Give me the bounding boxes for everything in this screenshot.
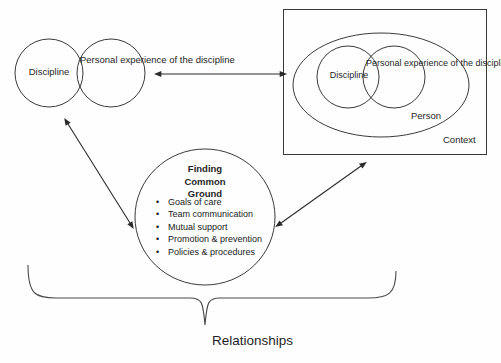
list-item-label: Policies & procedures xyxy=(168,247,255,257)
bullet-icon: • xyxy=(156,221,159,233)
diagram-vector-layer xyxy=(0,0,501,363)
list-item-label: Promotion & prevention xyxy=(168,234,262,244)
connector-common-ground-to-context xyxy=(281,166,361,223)
finding-common-ground-title: FindingCommonGround xyxy=(160,163,250,201)
right-discipline-label: Discipline xyxy=(320,70,378,81)
person-label: Person xyxy=(411,110,441,121)
connector-left-venn-to-common-ground xyxy=(68,124,130,223)
list-item-label: Mutual support xyxy=(168,222,228,232)
relationships-brace xyxy=(28,265,396,325)
list-item-label: Goals of care xyxy=(168,197,222,207)
fcg-title-line-2: Common xyxy=(184,176,225,187)
bullet-icon: • xyxy=(156,208,159,220)
common-ground-bullet-list: •Goals of care •Team communication •Mutu… xyxy=(155,196,273,258)
list-item: •Goals of care xyxy=(155,196,273,208)
left-personal-experience-label: Personal experience of the discipline xyxy=(80,54,144,65)
list-item: •Team communication xyxy=(155,208,273,220)
relationships-text: Relationships xyxy=(212,333,293,348)
bullet-icon: • xyxy=(156,246,159,258)
left-discipline-label: Discipline xyxy=(15,66,83,77)
context-box xyxy=(284,10,487,155)
bullet-icon: • xyxy=(156,196,159,208)
left-personal-experience-circle xyxy=(77,39,145,107)
list-item: •Mutual support xyxy=(155,221,273,233)
relationships-label: Relationships xyxy=(0,333,501,349)
list-item: •Promotion & prevention xyxy=(155,233,273,245)
list-item-label: Team communication xyxy=(168,209,253,219)
context-label: Context xyxy=(443,134,476,145)
bullet-icon: • xyxy=(156,233,159,245)
list-item: •Policies & procedures xyxy=(155,246,273,258)
right-personal-experience-label: Personal experience of the discipline xyxy=(366,58,426,69)
fcg-title-line-1: Finding xyxy=(188,163,222,174)
diagram-canvas: Discipline Personal experience of the di… xyxy=(0,0,501,363)
